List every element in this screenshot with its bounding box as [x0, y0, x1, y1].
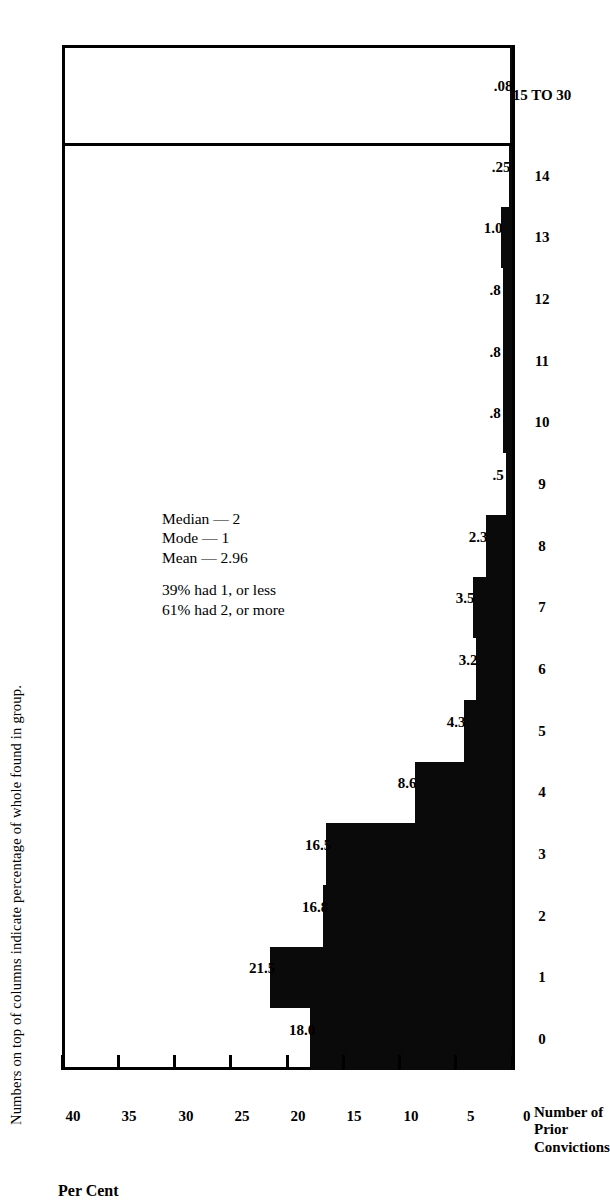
y-tick-label: 35 — [97, 1108, 137, 1125]
bar-12 — [503, 268, 512, 330]
bar-4 — [415, 762, 512, 824]
y-tick-label: 0 — [491, 1108, 531, 1125]
bar-value-label: .8 — [489, 282, 500, 299]
bar-8 — [486, 515, 512, 577]
y-tick-label: 30 — [153, 1108, 193, 1125]
bar-value-label: 16.5 — [305, 837, 331, 854]
x-tick-label-8: 8 — [538, 537, 546, 554]
bar-series — [62, 45, 512, 1070]
x-tick-label-9: 9 — [538, 476, 546, 493]
x-tick-label-15-to-30: 15 TO 30 — [513, 86, 572, 103]
y-tick-label: 10 — [378, 1108, 418, 1125]
y-tick — [511, 1055, 514, 1070]
bar-9 — [506, 453, 512, 515]
x-tick-label-5: 5 — [538, 722, 546, 739]
split-line: 39% had 1, or less — [162, 580, 285, 599]
x-tick-label-3: 3 — [538, 846, 546, 863]
bar-2 — [323, 885, 512, 947]
y-tick — [398, 1055, 401, 1070]
x-tick-label-2: 2 — [538, 907, 546, 924]
bar-7 — [473, 577, 512, 639]
bar-1 — [270, 947, 512, 1009]
stat-line: Mode — 1 — [162, 528, 285, 547]
bar-13 — [501, 207, 512, 269]
y-axis-title: Per Cent — [58, 1182, 119, 1200]
bar-value-label: 2.3 — [469, 529, 488, 546]
bar-11 — [503, 330, 512, 392]
x-tick-label-6: 6 — [538, 661, 546, 678]
bar-5 — [464, 700, 512, 762]
x-axis-title-line: Convictions — [534, 1139, 610, 1156]
bar-value-label: 21.5 — [249, 961, 275, 978]
bar-value-label: 16.8 — [302, 899, 328, 916]
y-tick-label: 5 — [434, 1108, 474, 1125]
y-tick — [173, 1055, 176, 1070]
x-tick-label-13: 13 — [535, 229, 550, 246]
bar-10 — [503, 392, 512, 454]
y-tick — [117, 1055, 120, 1070]
y-tick — [342, 1055, 345, 1070]
x-tick-label-11: 11 — [535, 352, 549, 369]
figure-caption: Numbers on top of columns indicate perce… — [8, 685, 25, 1125]
bar-value-label: .8 — [489, 344, 500, 361]
bar-3 — [326, 823, 512, 885]
x-tick-label-14: 14 — [535, 167, 550, 184]
bar-6 — [476, 638, 512, 700]
y-tick — [229, 1055, 232, 1070]
y-tick-label: 40 — [41, 1108, 81, 1125]
x-tick-label-7: 7 — [538, 599, 546, 616]
split-line: 61% had 2, or more — [162, 599, 285, 618]
bar-value-label: 1.0 — [483, 220, 502, 237]
bar-value-label: .08 — [493, 78, 512, 95]
bar-value-label: 18.0 — [288, 1022, 314, 1039]
statistics-annotation: Median — 2Mode — 1Mean — 2.9639% had 1, … — [162, 509, 285, 619]
plot-baseline — [512, 45, 515, 1070]
bar-value-label: .8 — [489, 405, 500, 422]
stat-line: Median — 2 — [162, 509, 285, 528]
x-tick-label-10: 10 — [535, 414, 550, 431]
x-tick-label-12: 12 — [535, 291, 550, 308]
annotation-group-stats: Median — 2Mode — 1Mean — 2.96 — [162, 509, 285, 567]
x-axis-title-line: Prior — [534, 1121, 610, 1138]
y-tick-label: 15 — [322, 1108, 362, 1125]
y-tick — [286, 1055, 289, 1070]
bar-value-label: .25 — [492, 159, 511, 176]
y-tick — [61, 1055, 64, 1070]
bar-0 — [310, 1008, 513, 1070]
stat-line: Mean — 2.96 — [162, 548, 285, 567]
y-tick — [454, 1055, 457, 1070]
bar-value-label: 3.2 — [459, 652, 478, 669]
bar-value-label: .5 — [493, 467, 504, 484]
x-axis-title-line: Number of — [534, 1104, 610, 1121]
y-tick-label: 20 — [266, 1108, 306, 1125]
annotation-group-splits: 39% had 1, or less61% had 2, or more — [162, 580, 285, 619]
x-axis-title: Number ofPriorConvictions — [534, 1104, 610, 1156]
bar-value-label: 3.5 — [455, 590, 474, 607]
category-divider — [62, 143, 515, 146]
x-tick-label-1: 1 — [538, 969, 546, 986]
bar-value-label: 4.3 — [446, 714, 465, 731]
x-tick-label-4: 4 — [538, 784, 546, 801]
y-tick-label: 25 — [209, 1108, 249, 1125]
bar-value-label: 8.6 — [398, 775, 417, 792]
x-tick-label-0: 0 — [538, 1031, 546, 1048]
